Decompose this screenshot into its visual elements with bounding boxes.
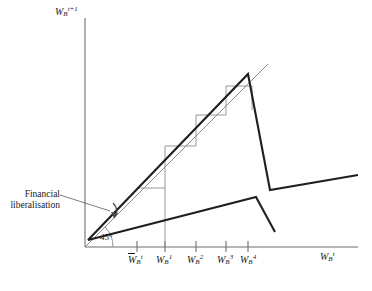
post-liberalisation-curve — [88, 74, 358, 240]
financial-liberalisation-annotation: Financial liberalisation — [0, 189, 60, 211]
tick-label-w-tilde-sup: t — [141, 253, 143, 261]
y-axis-label-sup: t+1 — [68, 5, 78, 13]
financial-liberalisation-line2: liberalisation — [0, 200, 60, 211]
pre-liberalisation-curve — [88, 197, 275, 240]
transition-function-diagram — [0, 0, 372, 291]
x-axis-label: WBt — [320, 251, 335, 263]
tick-label-w4: WB4 — [240, 254, 256, 266]
angle-45-label: 45° — [100, 232, 113, 242]
tick-label-w2: WB2 — [187, 254, 203, 266]
x-axis-label-sup: t — [333, 250, 335, 258]
tick-label-w-tilde-base: W — [128, 254, 136, 265]
tick-label-w3: WB3 — [217, 254, 233, 266]
tick-label-w4-sup: 4 — [253, 253, 257, 261]
tick-label-w1: WB1 — [156, 254, 172, 266]
forty-five-degree-line — [85, 64, 268, 247]
tick-label-w1-sup: 1 — [169, 253, 173, 261]
tick-label-w2-sup: 2 — [200, 253, 204, 261]
financial-liberalisation-line1: Financial — [0, 189, 60, 200]
tick-label-w3-sup: 3 — [230, 253, 234, 261]
y-axis-label: WBt+1 — [55, 6, 78, 18]
tick-label-w-tilde: WBt — [128, 254, 143, 266]
tick-label-w-tilde-overbar: W — [128, 255, 136, 265]
